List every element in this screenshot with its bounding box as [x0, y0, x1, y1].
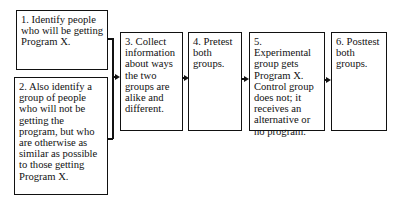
step-3-box: 3. Collect information about ways the tw…: [120, 32, 183, 131]
step-6-box: 6. Posttest both groups.: [331, 32, 387, 131]
step-2-text: 2. Also identify a group of people who w…: [19, 81, 97, 182]
bracket-vertical-line: [112, 38, 114, 139]
step-1-text: 1. Identify people who will be getting P…: [21, 14, 103, 47]
step-4-text: 4. Pretest both groups.: [193, 36, 232, 69]
step-4-box: 4. Pretest both groups.: [188, 32, 242, 131]
step-5-box: 5. Experimental group gets Program X. Co…: [249, 32, 325, 131]
step-1-box: 1. Identify people who will be getting P…: [16, 10, 108, 70]
step-2-box: 2. Also identify a group of people who w…: [14, 77, 108, 195]
step-6-text: 6. Posttest both groups.: [336, 36, 380, 69]
step-3-text: 3. Collect information about ways the tw…: [125, 36, 175, 114]
step-5-text: 5. Experimental group gets Program X. Co…: [254, 36, 314, 137]
bracket-bottom-line: [107, 138, 113, 140]
